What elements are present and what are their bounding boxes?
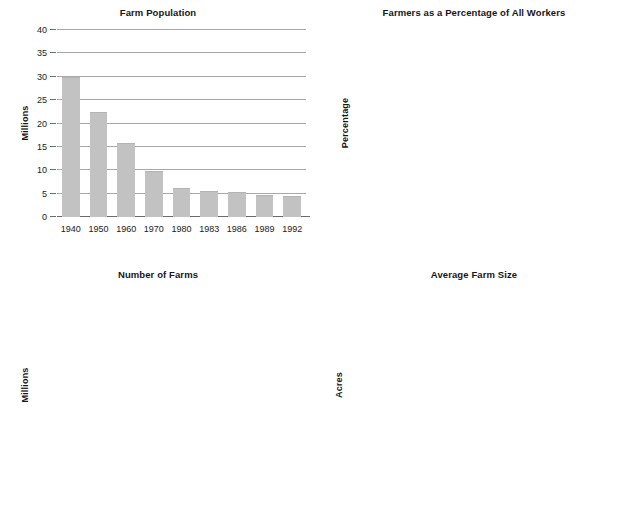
y-tick-label: 30 — [37, 72, 47, 82]
bar[interactable] — [173, 188, 191, 217]
x-tick-label: 1980 — [172, 224, 192, 234]
x-tick-label: 1983 — [199, 224, 219, 234]
bar-slot: 1940 — [57, 30, 85, 217]
y-tick-label: 25 — [37, 95, 47, 105]
chart-panel-number-of-farms: Number of Farms Millions 012345671940195… — [0, 262, 316, 524]
bar[interactable] — [228, 192, 246, 217]
bar[interactable] — [117, 143, 135, 217]
chart-title: Average Farm Size — [316, 269, 632, 280]
plot-area: 0510152025303540194019501960197019801983… — [57, 30, 306, 217]
x-tick-label: 1960 — [116, 224, 136, 234]
y-axis-label: Acres — [334, 350, 344, 420]
chart-panel-farmers-percentage: Farmers as a Percentage of All Workers P… — [316, 0, 632, 262]
x-tick-label: 1940 — [61, 224, 81, 234]
bar[interactable] — [90, 112, 108, 217]
bar[interactable] — [200, 191, 218, 217]
y-tick-mark — [50, 52, 56, 53]
y-tick-mark — [50, 146, 56, 147]
y-tick-label: 40 — [37, 25, 47, 35]
y-tick-mark — [50, 123, 56, 124]
y-axis-label: Percentage — [340, 88, 350, 158]
y-tick-label: 20 — [37, 119, 47, 129]
y-tick-label: 5 — [42, 189, 47, 199]
chart-title: Farm Population — [0, 7, 316, 18]
x-tick-label: 1950 — [88, 224, 108, 234]
bar-slot: 1980 — [168, 30, 196, 217]
y-axis-label: Millions — [20, 88, 30, 158]
chart-title: Number of Farms — [0, 269, 316, 280]
bar-series: 194019501960197019801983198619891992 — [57, 30, 306, 217]
y-tick-mark — [50, 216, 56, 217]
x-tick-label: 1992 — [282, 224, 302, 234]
bar-slot: 1986 — [223, 30, 251, 217]
y-tick-label: 10 — [37, 165, 47, 175]
bar-slot: 1989 — [251, 30, 279, 217]
bar-slot: 1960 — [112, 30, 140, 217]
y-tick-mark — [50, 193, 56, 194]
x-tick-label: 1986 — [227, 224, 247, 234]
bar-slot: 1950 — [85, 30, 113, 217]
y-tick-label: 15 — [37, 142, 47, 152]
y-tick-mark — [50, 76, 56, 77]
chart-panel-farm-population: Farm Population Millions 051015202530354… — [0, 0, 316, 262]
bar[interactable] — [283, 196, 301, 218]
y-tick-mark — [50, 99, 56, 100]
bar[interactable] — [62, 77, 80, 217]
bar-slot: 1992 — [278, 30, 306, 217]
bar[interactable] — [256, 195, 274, 217]
bar-slot: 1983 — [195, 30, 223, 217]
chart-panel-average-farm-size: Average Farm Size Acres 0100200300400500… — [316, 262, 632, 524]
y-tick-label: 0 — [42, 212, 47, 222]
bar-slot: 1970 — [140, 30, 168, 217]
y-tick-label: 35 — [37, 48, 47, 58]
y-tick-mark — [50, 29, 56, 30]
y-axis-label: Millions — [20, 350, 30, 420]
x-tick-label: 1970 — [144, 224, 164, 234]
y-tick-mark — [50, 169, 56, 170]
x-tick-label: 1989 — [255, 224, 275, 234]
chart-title: Farmers as a Percentage of All Workers — [316, 7, 632, 18]
figure-sheet: Farm Population Millions 051015202530354… — [0, 0, 632, 524]
bar[interactable] — [145, 171, 163, 217]
